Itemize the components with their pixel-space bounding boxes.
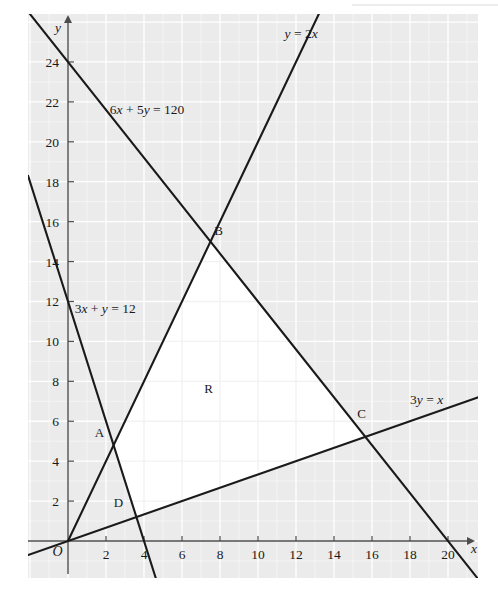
graph-figure: 2468101214161820 24681012141618202224 x … xyxy=(0,0,498,601)
vertex-label-a: A xyxy=(95,425,105,440)
equation-label: 3x + y = 12 xyxy=(75,301,136,316)
y-tick-label: 18 xyxy=(46,175,60,190)
y-tick-label: 20 xyxy=(46,135,60,150)
equation-label: 6x + 5y = 120 xyxy=(110,102,185,117)
x-axis-label: x xyxy=(470,541,477,556)
region-label: R xyxy=(204,381,213,396)
x-tick-label: 2 xyxy=(103,547,110,562)
y-tick-label: 16 xyxy=(46,215,60,230)
y-tick-label: 24 xyxy=(46,55,60,70)
coordinate-plane-svg: 2468101214161820 24681012141618202224 x … xyxy=(0,0,498,601)
x-tick-label: 12 xyxy=(289,547,303,562)
vertex-label-d: D xyxy=(114,495,123,510)
y-tick-label: 6 xyxy=(52,414,59,429)
y-tick-label: 22 xyxy=(46,95,60,110)
y-tick-label: 8 xyxy=(52,374,59,389)
x-tick-label: 6 xyxy=(179,547,186,562)
x-tick-label: 8 xyxy=(217,547,224,562)
origin-label: O xyxy=(52,544,62,559)
x-tick-label: 18 xyxy=(403,547,417,562)
equation-label: y = 2x xyxy=(283,26,318,41)
y-axis-label: y xyxy=(53,20,61,35)
x-tick-label: 16 xyxy=(365,547,379,562)
x-tick-label: 14 xyxy=(327,547,341,562)
y-tick-label: 2 xyxy=(52,494,59,509)
y-tick-label: 12 xyxy=(46,294,60,309)
x-tick-label: 10 xyxy=(251,547,265,562)
x-tick-label: 20 xyxy=(441,547,455,562)
y-tick-label: 4 xyxy=(52,454,59,469)
y-tick-label: 10 xyxy=(46,334,60,349)
equation-label: 3y = x xyxy=(410,392,443,407)
vertex-label-b: B xyxy=(214,223,223,238)
vertex-label-c: C xyxy=(357,406,366,421)
